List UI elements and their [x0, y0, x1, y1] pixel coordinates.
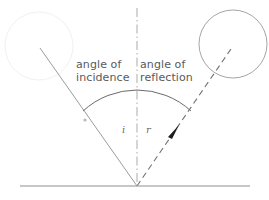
angle-of-reflection-line-2: reflection	[140, 71, 193, 84]
angle-of-reflection-label: angle ofreflection	[140, 59, 193, 84]
angle-of-incidence-line-1: angle of	[76, 58, 121, 71]
incident-ray-marker	[83, 118, 86, 121]
angle-of-reflection-line-1: angle of	[140, 58, 185, 71]
angle-i-symbol: i	[122, 124, 125, 135]
right-circle	[199, 10, 267, 78]
angle-of-incidence-line-2: incidence	[76, 71, 130, 84]
diagram-canvas	[0, 0, 269, 200]
angle-of-incidence-label: angle ofincidence	[76, 59, 130, 84]
left-circle	[5, 12, 73, 80]
angle-r-symbol: r	[146, 124, 151, 135]
reflection-diagram: angle ofincidence angle ofreflection i r	[0, 0, 269, 200]
reflected-ray-arrowhead	[168, 125, 179, 139]
